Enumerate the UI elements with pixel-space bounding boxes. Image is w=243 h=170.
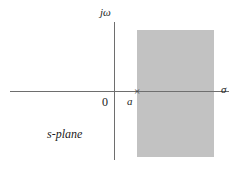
s-plane-figure: × jω σ 0 a s-plane <box>0 0 243 170</box>
real-axis-label: σ <box>221 83 226 95</box>
pole-label: a <box>127 95 133 107</box>
origin-label: 0 <box>102 95 108 110</box>
region-of-convergence-shading <box>137 30 214 157</box>
plane-label: s-plane <box>47 127 82 142</box>
real-axis <box>10 91 229 92</box>
imaginary-axis <box>114 22 115 160</box>
imaginary-axis-label: jω <box>100 6 111 18</box>
